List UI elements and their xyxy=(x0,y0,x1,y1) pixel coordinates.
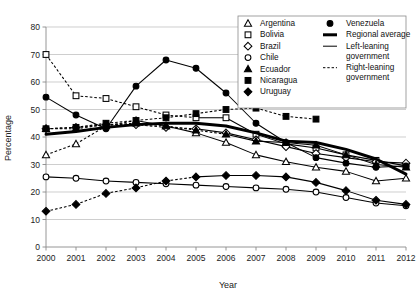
x-axis-ticks: 2000200120022003200420052006200720082009… xyxy=(37,247,416,263)
circle-open-marker xyxy=(343,195,349,201)
legend-label: Left-leaning xyxy=(346,42,389,51)
diamond-filled-marker xyxy=(102,190,110,198)
y-tick-label: 50 xyxy=(31,105,41,115)
x-tick-label: 2006 xyxy=(217,253,236,263)
x-tick-label: 2001 xyxy=(67,253,86,263)
y-tick-label: 60 xyxy=(31,77,41,87)
circle-open-marker xyxy=(283,186,289,192)
legend-label: Right-leaning xyxy=(346,63,395,72)
legend-item-bolivia[interactable]: Bolivia xyxy=(245,30,284,39)
series-segment xyxy=(316,182,346,190)
series-segment xyxy=(346,163,376,167)
x-axis-title: Year xyxy=(219,280,237,290)
chart-container: 01020304050607080 2000200120022003200420… xyxy=(0,0,420,293)
legend-label: Argentina xyxy=(260,19,295,28)
triangle-open-marker xyxy=(72,140,79,146)
y-tick-label: 70 xyxy=(31,50,41,60)
x-tick-label: 2011 xyxy=(367,253,386,263)
diamond-filled-marker xyxy=(312,179,320,187)
x-tick-label: 2003 xyxy=(127,253,146,263)
series-segment xyxy=(46,144,76,155)
series-segment xyxy=(286,189,316,192)
square-filled-marker xyxy=(163,115,169,121)
circle-open-marker xyxy=(103,178,109,184)
square-filled-marker xyxy=(223,107,229,113)
square-filled-marker xyxy=(73,124,79,130)
square-filled-marker xyxy=(313,116,319,122)
y-tick-label: 20 xyxy=(31,187,41,197)
circle-filled-marker xyxy=(223,90,229,96)
triangle-open-marker xyxy=(402,175,409,181)
square-open-marker xyxy=(133,104,139,110)
series-segment xyxy=(316,158,346,164)
legend-label-line2: government xyxy=(346,52,390,61)
circle-filled-marker xyxy=(163,57,169,63)
y-tick-label: 30 xyxy=(31,160,41,170)
legend-label: Ecuador xyxy=(260,65,291,74)
series-segment xyxy=(136,181,166,188)
triangle-open-marker xyxy=(252,151,259,157)
series-segment xyxy=(136,118,166,121)
circle-filled-marker xyxy=(313,155,319,161)
circle-filled-marker xyxy=(133,83,139,89)
circle-open-marker xyxy=(223,184,229,190)
legend-label: Uruguay xyxy=(260,87,292,96)
x-tick-label: 2012 xyxy=(397,253,416,263)
square-filled-marker xyxy=(43,126,49,132)
series-segment xyxy=(166,177,196,181)
square-open-marker xyxy=(223,115,229,121)
chart-legend: ArgentinaBoliviaBrazilChileEcuadorNicara… xyxy=(238,16,411,108)
series-segment xyxy=(226,187,256,188)
series-segment xyxy=(106,181,136,182)
legend-label-line2: government xyxy=(346,73,390,82)
series-segment xyxy=(226,143,256,155)
diamond-filled-marker xyxy=(342,187,350,195)
series-segment xyxy=(136,107,166,115)
circle-filled-marker xyxy=(343,160,349,166)
y-tick-label: 10 xyxy=(31,215,41,225)
x-tick-label: 2009 xyxy=(307,253,326,263)
square-filled-marker xyxy=(283,113,289,119)
series-segment xyxy=(226,134,256,141)
circle-filled-icon xyxy=(327,21,333,27)
series-segment xyxy=(196,68,226,93)
circle-open-marker xyxy=(43,174,49,180)
diamond-filled-marker xyxy=(192,173,200,181)
legend-label: Venezuela xyxy=(346,19,385,28)
y-tick-label: 0 xyxy=(35,242,40,252)
circle-filled-marker xyxy=(253,120,259,126)
x-tick-label: 2010 xyxy=(337,253,356,263)
diamond-filled-marker xyxy=(252,172,260,180)
circle-filled-marker xyxy=(403,163,409,169)
circle-filled-marker xyxy=(43,94,49,100)
series-segment xyxy=(346,171,376,181)
circle-open-marker xyxy=(193,182,199,188)
x-tick-label: 2000 xyxy=(37,253,56,263)
square-filled-marker xyxy=(193,111,199,117)
circle-open-marker xyxy=(73,175,79,181)
series-segment xyxy=(76,96,106,99)
diamond-filled-marker xyxy=(132,184,140,192)
series-segment xyxy=(196,176,226,177)
circle-filled-marker xyxy=(73,112,79,118)
series-segment xyxy=(226,133,256,140)
series-segment xyxy=(196,110,226,114)
circle-filled-marker xyxy=(373,164,379,170)
series-uruguay xyxy=(42,172,410,216)
x-tick-label: 2008 xyxy=(277,253,296,263)
series-segment xyxy=(256,176,286,177)
series-segment xyxy=(196,133,226,143)
square-open-marker xyxy=(73,93,79,99)
square-filled-marker xyxy=(133,118,139,124)
series-segment xyxy=(106,99,136,107)
square-open-marker xyxy=(43,52,49,58)
y-axis-title: Percentage xyxy=(3,115,13,161)
legend-label: Bolivia xyxy=(260,30,285,39)
series-segment xyxy=(46,55,76,96)
series-segment xyxy=(106,188,136,194)
circle-open-marker xyxy=(313,189,319,195)
series-segment xyxy=(166,126,196,133)
square-open-marker xyxy=(103,96,109,102)
series-segment xyxy=(316,192,346,198)
diamond-filled-marker xyxy=(72,201,80,209)
